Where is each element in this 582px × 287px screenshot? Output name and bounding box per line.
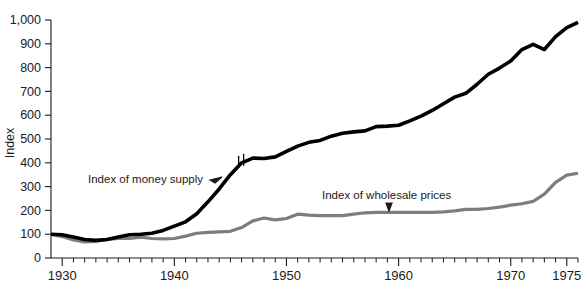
line-chart: 01002003004005006007008009001,000 193019… — [0, 0, 582, 287]
x-tick-label: 1930 — [48, 268, 77, 283]
x-axis-ticks — [62, 258, 578, 266]
annotation-wholesale-prices: Index of wholesale prices — [322, 189, 451, 201]
y-tick-label: 200 — [20, 204, 41, 218]
y-tick-label: 600 — [20, 108, 41, 122]
y-tick-label: 1,000 — [10, 13, 41, 27]
y-tick-label: 500 — [20, 132, 41, 146]
y-tick-label: 700 — [20, 85, 41, 99]
x-axis-labels: 193019401950196019701975 — [48, 268, 581, 283]
x-tick-label: 1970 — [496, 268, 525, 283]
annotation-wholesale-prices-arrow — [386, 203, 392, 211]
x-tick-label: 1950 — [272, 268, 301, 283]
y-tick-label: 300 — [20, 180, 41, 194]
x-tick-label: 1960 — [384, 268, 413, 283]
x-tick-label: 1940 — [160, 268, 189, 283]
y-tick-label: 100 — [20, 227, 41, 241]
annotation-money-supply: Index of money supply — [88, 173, 203, 185]
y-tick-label: 800 — [20, 61, 41, 75]
chart-container: 01002003004005006007008009001,000 193019… — [0, 0, 582, 287]
y-tick-label: 900 — [20, 37, 41, 51]
y-tick-label: 400 — [20, 156, 41, 170]
annotation-money-supply-arrow — [210, 177, 222, 183]
x-tick-label: 1975 — [552, 268, 581, 283]
y-tick-label: 0 — [34, 251, 41, 265]
y-axis-title: Index — [3, 127, 17, 158]
